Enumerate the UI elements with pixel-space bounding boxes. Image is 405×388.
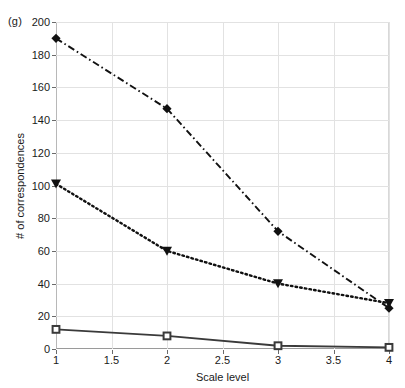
series-square-marker <box>164 333 171 340</box>
series-diamond <box>51 34 393 313</box>
series-square-line <box>56 329 389 347</box>
series-square-marker <box>386 344 393 351</box>
data-series-layer <box>0 0 405 388</box>
series-triangle-down <box>51 180 394 308</box>
series-square-marker <box>53 326 60 333</box>
series-diamond-marker <box>51 34 60 43</box>
series-triangle-down-line <box>56 184 389 303</box>
series-square-marker <box>275 342 282 349</box>
x-axis-title: Scale level <box>196 371 249 383</box>
series-square <box>53 326 393 351</box>
chart-root: (g) 020406080100120140160180200 11.522.5… <box>0 0 405 388</box>
y-axis-title: # of correspondences <box>14 133 26 239</box>
